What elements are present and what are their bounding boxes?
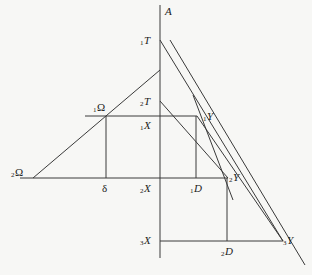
line-tangent-long (170, 40, 305, 265)
geometric-diagram: A 1T 2T 1X 2X 3X 1Y 2Y 3Y 1D 2D 1Ω 2Ω δ (0, 0, 312, 275)
label-y3: 3Y (283, 235, 293, 247)
label-delta: δ (102, 183, 107, 194)
label-t1: 1T (140, 35, 150, 47)
label-t2: 2T (140, 96, 150, 108)
label-omega2: 2Ω (11, 167, 23, 179)
label-d1: 1D (190, 183, 202, 195)
label-y1: 1Y (203, 111, 213, 123)
label-x1: 1X (140, 120, 151, 132)
label-x3: 3X (140, 235, 151, 247)
label-x2: 2X (140, 183, 151, 195)
label-omega1: 1Ω (93, 102, 105, 114)
line-t2-y2 (160, 101, 228, 178)
label-y2: 2Y (229, 172, 239, 184)
label-d2: 2D (221, 246, 233, 258)
label-a: A (165, 6, 172, 17)
diagram-lines (0, 0, 312, 275)
line-t1-y1-y3 (160, 40, 283, 241)
